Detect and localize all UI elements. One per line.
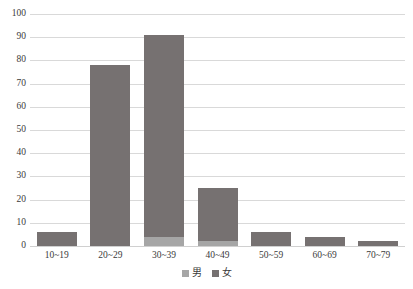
bar-segment-female[interactable] <box>90 65 130 246</box>
bar-stack[interactable] <box>144 35 184 246</box>
y-axis-tick-label: 20 <box>2 195 26 205</box>
bar-slot <box>84 14 138 246</box>
legend-swatch-icon <box>182 270 189 277</box>
bar-segment-male[interactable] <box>144 237 184 246</box>
legend-label: 女 <box>222 268 232 278</box>
bar-segment-female[interactable] <box>251 232 291 246</box>
bar-stack[interactable] <box>198 188 238 246</box>
bar-segment-male[interactable] <box>198 241 238 246</box>
bar-stack[interactable] <box>358 241 398 246</box>
bar-slot <box>244 14 298 246</box>
x-axis-tick-label: 30~39 <box>137 250 191 261</box>
bar-segment-female[interactable] <box>358 241 398 246</box>
y-axis-tick-label: 100 <box>2 9 26 19</box>
y-axis-tick-label: 50 <box>2 125 26 135</box>
bar-stack[interactable] <box>90 65 130 246</box>
x-axis-tick-label: 40~49 <box>191 250 245 261</box>
y-axis-tick-label: 70 <box>2 79 26 89</box>
y-axis-tick-label: 30 <box>2 171 26 181</box>
legend-item[interactable]: 女 <box>212 268 232 278</box>
bar-slot <box>30 14 84 246</box>
legend-item[interactable]: 男 <box>182 268 202 278</box>
y-axis-tick-label: 0 <box>2 241 26 251</box>
bar-stack[interactable] <box>305 237 345 246</box>
x-axis-tick-label: 10~19 <box>30 250 84 261</box>
y-axis-tick-label: 90 <box>2 32 26 42</box>
legend-label: 男 <box>192 268 202 278</box>
bar-slot <box>298 14 352 246</box>
bar-segment-female[interactable] <box>144 35 184 237</box>
legend-swatch-icon <box>212 270 219 277</box>
y-axis: 1009080706050403020100 <box>0 14 26 246</box>
x-axis-tick-label: 60~69 <box>298 250 352 261</box>
x-axis-tick-label: 70~79 <box>351 250 405 261</box>
x-axis: 10~1920~2930~3940~4950~5960~6970~79 <box>30 250 405 261</box>
x-axis-tick-label: 50~59 <box>244 250 298 261</box>
chart-legend: 男女 <box>0 268 413 278</box>
bar-slot <box>351 14 405 246</box>
bar-stack[interactable] <box>37 232 77 246</box>
y-axis-tick-label: 60 <box>2 102 26 112</box>
gridline <box>30 246 405 247</box>
y-axis-tick-label: 10 <box>2 218 26 228</box>
bar-slot <box>191 14 245 246</box>
bar-slot <box>137 14 191 246</box>
bar-segment-female[interactable] <box>37 232 77 246</box>
bar-segment-female[interactable] <box>305 237 345 246</box>
y-axis-tick-label: 80 <box>2 55 26 65</box>
bar-stack[interactable] <box>251 232 291 246</box>
bar-chart: 1009080706050403020100 10~1920~2930~3940… <box>0 0 413 289</box>
y-axis-tick-label: 40 <box>2 148 26 158</box>
bars-layer <box>30 14 405 246</box>
x-axis-tick-label: 20~29 <box>84 250 138 261</box>
bar-segment-female[interactable] <box>198 188 238 241</box>
